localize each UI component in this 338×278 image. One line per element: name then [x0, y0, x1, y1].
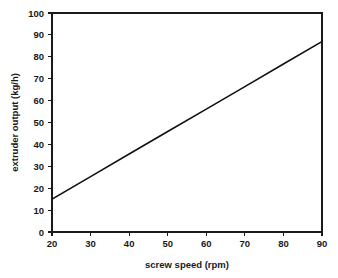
x-tick-label-80: 80 — [278, 238, 289, 249]
x-axis-title: screw speed (rpm) — [145, 259, 229, 270]
y-tick-label-10: 10 — [33, 205, 44, 216]
y-tick-label-100: 100 — [28, 8, 44, 19]
x-tick-label-40: 40 — [124, 238, 135, 249]
y-axis-title: extruder output (kg/h) — [9, 73, 20, 172]
y-tick-label-30: 30 — [33, 161, 44, 172]
y-tick-label-50: 50 — [33, 117, 44, 128]
x-tick-label-50: 50 — [162, 238, 173, 249]
plot-area-background — [52, 13, 322, 232]
y-axis-tick-labels: 0 10 20 30 40 50 60 70 80 90 100 — [28, 8, 44, 238]
y-tick-label-20: 20 — [33, 183, 44, 194]
x-tick-label-70: 70 — [240, 238, 251, 249]
y-tick-label-0: 0 — [39, 227, 44, 238]
y-tick-label-70: 70 — [33, 73, 44, 84]
y-tick-label-40: 40 — [33, 139, 44, 150]
line-chart: 0 10 20 30 40 50 60 70 80 90 100 20 30 4… — [0, 0, 338, 278]
y-tick-label-60: 60 — [33, 95, 44, 106]
x-tick-label-20: 20 — [47, 238, 58, 249]
x-tick-label-60: 60 — [201, 238, 212, 249]
x-tick-label-30: 30 — [85, 238, 96, 249]
x-axis-tick-labels: 20 30 40 50 60 70 80 90 — [47, 238, 328, 249]
y-tick-label-90: 90 — [33, 29, 44, 40]
x-tick-label-90: 90 — [317, 238, 328, 249]
y-tick-label-80: 80 — [33, 51, 44, 62]
chart-container: 0 10 20 30 40 50 60 70 80 90 100 20 30 4… — [0, 0, 338, 278]
